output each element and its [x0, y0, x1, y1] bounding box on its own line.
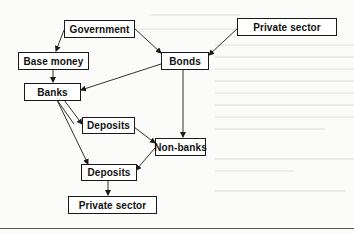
- arrow-private-sector-to-bonds: [209, 28, 238, 55]
- horizontal-rule: [0, 228, 354, 229]
- node-government: Government: [64, 20, 135, 38]
- node-deposits-upper: Deposits: [82, 117, 135, 134]
- arrow-bonds-to-banks: [81, 64, 161, 90]
- node-banks: Banks: [24, 83, 81, 101]
- arrow-non-banks-to-deposits: [136, 148, 155, 170]
- arrow-deposits-to-non-banks: [134, 127, 155, 143]
- node-private-sector-top: Private sector: [237, 18, 337, 36]
- node-deposits-lower: Deposits: [81, 164, 137, 181]
- node-non-banks: Non-banks: [155, 138, 206, 156]
- arrow-government-to-base-money: [56, 30, 64, 51]
- node-base-money: Base money: [18, 52, 89, 70]
- node-private-sector-bottom: Private sector: [68, 196, 157, 214]
- node-bonds: Bonds: [161, 52, 209, 70]
- arrow-banks-to-deposits-upper-parallel: [57, 100, 74, 124]
- arrow-government-to-bonds: [134, 28, 161, 53]
